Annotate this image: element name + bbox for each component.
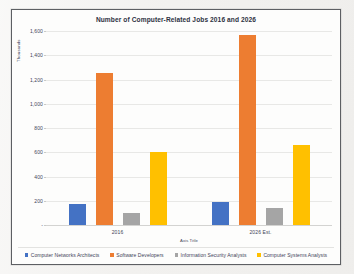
x-axis-title: Axis Title: [46, 238, 332, 243]
legend-item[interactable]: Computer Networks Architects: [25, 252, 100, 258]
y-tick-mark: [44, 31, 46, 32]
bar: [212, 202, 229, 225]
x-category-label: 2016: [112, 229, 124, 235]
gridline: [46, 128, 332, 129]
gridline: [46, 201, 332, 202]
y-tick-label: 400: [34, 174, 43, 180]
y-tick-label: 600: [34, 149, 43, 155]
bar: [266, 208, 283, 225]
x-category-label: 2026 Est.: [249, 229, 271, 235]
y-tick-label: 800: [34, 125, 43, 131]
y-tick-label: 1,600: [30, 28, 43, 34]
y-tick-mark: [44, 177, 46, 178]
legend-label: Computer Networks Architects: [31, 252, 100, 258]
bar: [293, 145, 310, 225]
bar: [123, 213, 140, 225]
bar: [96, 73, 113, 225]
bar: [69, 204, 86, 225]
gridline: [46, 55, 332, 56]
legend-item[interactable]: Information Security Analysts: [175, 252, 247, 258]
x-axis-line: [46, 225, 332, 226]
chart-inner: Number of Computer-Related Jobs 2016 and…: [12, 10, 340, 264]
gridline: [46, 152, 332, 153]
legend-label: Information Security Analysts: [181, 252, 247, 258]
y-tick-mark: [44, 128, 46, 129]
gridline: [46, 104, 332, 105]
legend-label: Software Developers: [116, 252, 163, 258]
legend-swatch-icon: [257, 253, 260, 256]
chart-title: Number of Computer-Related Jobs 2016 and…: [12, 16, 340, 24]
legend-swatch-icon: [110, 253, 113, 256]
y-tick-label: -: [41, 222, 43, 228]
legend-item[interactable]: Computer Systems Analysts: [257, 252, 327, 258]
plot-area: -2004006008001,0001,2001,4001,600 201620…: [46, 31, 332, 225]
y-tick-mark: [44, 152, 46, 153]
gridline: [46, 177, 332, 178]
y-tick-label: 1,000: [30, 101, 43, 107]
chart-legend: Computer Networks ArchitectsSoftware Dev…: [18, 247, 334, 258]
legend-item[interactable]: Software Developers: [110, 252, 163, 258]
y-tick-mark: [44, 104, 46, 105]
chart-frame: Number of Computer-Related Jobs 2016 and…: [11, 9, 341, 265]
y-tick-label: 200: [34, 198, 43, 204]
legend-swatch-icon: [175, 253, 178, 256]
gridline: [46, 31, 332, 32]
y-tick-mark: [44, 201, 46, 202]
y-tick-label: 1,200: [30, 77, 43, 83]
y-tick-mark: [44, 55, 46, 56]
gridline: [46, 80, 332, 81]
legend-label: Computer Systems Analysts: [263, 252, 327, 258]
y-tick-label: 1,400: [30, 52, 43, 58]
bar: [150, 152, 167, 225]
bar: [239, 35, 256, 225]
y-tick-mark: [44, 80, 46, 81]
legend-swatch-icon: [25, 253, 28, 256]
y-tick-mark: [44, 225, 46, 226]
y-axis-title: Thousands: [16, 22, 21, 62]
